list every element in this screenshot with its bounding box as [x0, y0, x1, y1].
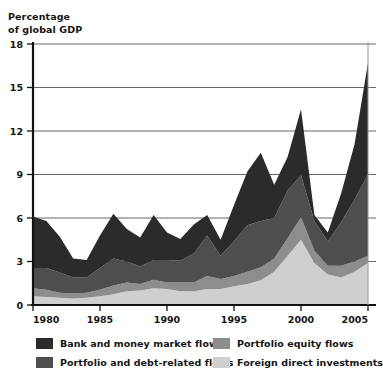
- chart-legend: Bank and money market flows Portfolio an…: [0, 336, 380, 378]
- legend-label-2: Portfolio equity flows: [237, 338, 353, 349]
- x-tick-label: 1985: [87, 314, 113, 325]
- legend-item-bank-and-money-market-flows: Bank and money market flows: [36, 338, 224, 349]
- y-tick-label: 3: [16, 256, 23, 267]
- x-tick-label: 2005: [342, 314, 368, 325]
- y-tick-label: 9: [16, 169, 23, 180]
- legend-item-foreign-direct-investments: Foreign direct investments: [213, 357, 383, 368]
- y-tick-label: 0: [16, 300, 23, 311]
- y-tick-label: 6: [16, 213, 23, 224]
- x-tick-label: 1995: [221, 314, 247, 325]
- x-tick-label: 1980: [33, 314, 60, 325]
- y-tick-label: 18: [10, 39, 24, 50]
- legend-swatch-icon-2: [213, 338, 230, 349]
- legend-item-portfolio-and-debt-related-flows: Portfolio and debt-related flows: [36, 357, 233, 368]
- legend-item-portfolio-equity-flows: Portfolio equity flows: [213, 338, 353, 349]
- legend-swatch-icon-0: [36, 338, 53, 349]
- legend-label-3: Foreign direct investments: [237, 357, 383, 368]
- stacked-area-plot: 0369121518198019851990199520002005: [0, 0, 380, 336]
- legend-swatch-icon-1: [36, 357, 53, 368]
- y-tick-label: 12: [10, 126, 23, 137]
- legend-label-1: Portfolio and debt-related flows: [60, 357, 233, 368]
- x-tick-label: 1990: [154, 314, 181, 325]
- legend-label-0: Bank and money market flows: [60, 338, 224, 349]
- x-tick-label: 2000: [288, 314, 315, 325]
- legend-swatch-icon-3: [213, 357, 230, 368]
- y-tick-label: 15: [10, 82, 23, 93]
